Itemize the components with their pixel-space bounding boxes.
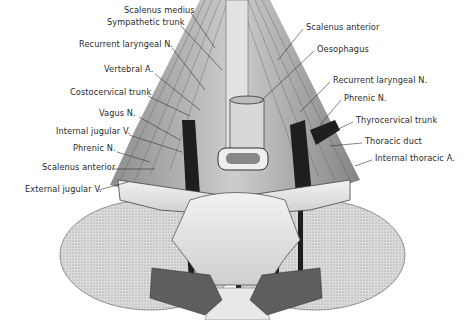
label-internal-jugular-v: Internal jugular V.	[56, 126, 130, 136]
label-thyrocervical-trunk: Thyrocervical trunk	[356, 115, 437, 125]
label-vagus-n: Vagus N.	[99, 108, 136, 118]
label-oesophagus: Oesophagus	[317, 44, 369, 54]
label-scalenus-anterior-left: Scalenus anterior	[42, 162, 115, 172]
label-scalenus-anterior-right: Scalenus anterior	[306, 22, 379, 32]
label-phrenic-n-right: Phrenic N.	[344, 93, 387, 103]
label-external-jugular-v: External jugular V.	[25, 184, 102, 194]
label-phrenic-n-left: Phrenic N.	[73, 143, 116, 153]
label-vertebral-a: Vertebral A.	[104, 64, 153, 74]
label-sympathetic-trunk: Sympathetic trunk	[107, 17, 185, 27]
label-thoracic-duct: Thoracic duct	[365, 136, 422, 146]
label-scalenus-medius: Scalenus medius	[124, 5, 195, 15]
oesophagus-opening	[218, 148, 268, 170]
label-recurrent-laryngeal-n-right: Recurrent laryngeal N.	[333, 75, 427, 85]
label-costocervical-trunk: Costocervical trunk	[70, 87, 151, 97]
label-internal-thoracic-a: Internal thoracic A.	[375, 153, 455, 163]
label-recurrent-laryngeal-n-left: Recurrent laryngeal N.	[79, 39, 173, 49]
